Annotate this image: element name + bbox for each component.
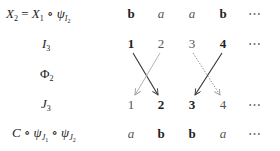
arrow-3-to-4	[193, 53, 220, 95]
phi2-arrows	[0, 0, 280, 151]
arrow-2-to-1	[135, 53, 160, 95]
arrow-4-to-3	[195, 53, 222, 95]
arrow-1-to-2	[133, 53, 158, 95]
